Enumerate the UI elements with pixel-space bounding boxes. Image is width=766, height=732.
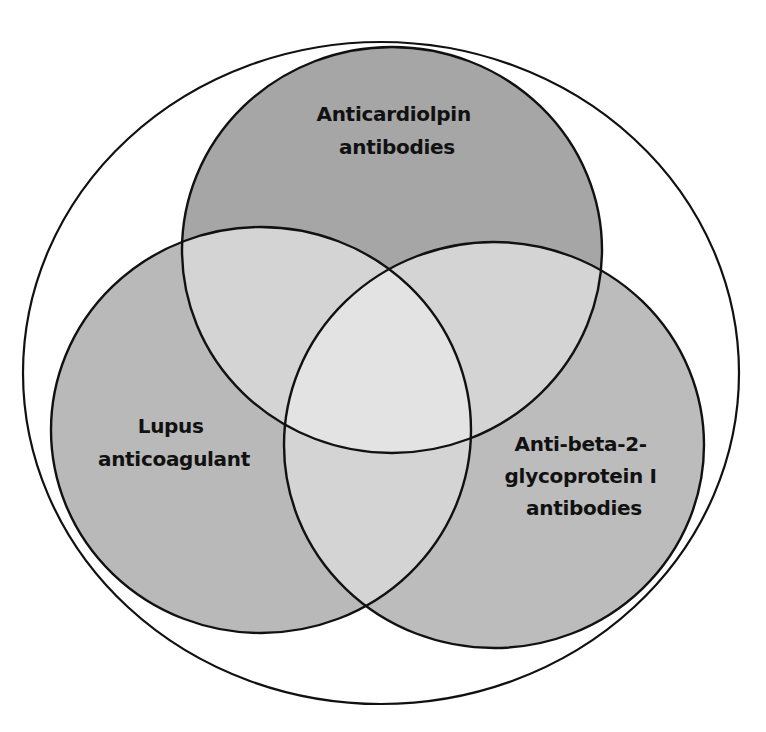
- label-anti-beta2-glycoprotein: Anti-beta-2- glycoprotein I antibodies: [505, 432, 664, 520]
- venn-diagram: Anticardiolpin antibodies Lupus anticoag…: [0, 0, 766, 732]
